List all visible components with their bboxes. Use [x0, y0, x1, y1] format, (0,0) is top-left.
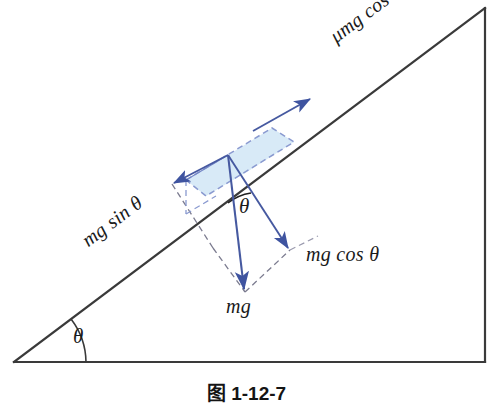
figure-caption: 图 1-12-7 [0, 378, 493, 405]
friction-vector-arrow [253, 99, 310, 131]
block-angle-label: θ [239, 196, 249, 217]
dashed-slope-guide [186, 196, 216, 214]
base-angle-label: θ [73, 326, 83, 347]
mg-weight-label: mg [226, 296, 251, 316]
mg-cos-theta-label: mg cos θ [306, 244, 379, 264]
block-fill [186, 128, 294, 196]
block-on-incline [186, 128, 294, 196]
dashed-to-cos-tip [245, 250, 290, 292]
